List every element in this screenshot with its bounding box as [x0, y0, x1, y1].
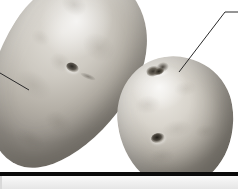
potato-right: [109, 49, 238, 189]
figure-crop: [0, 0, 238, 189]
potato-right-skin-texture: [109, 49, 238, 189]
plate-background-lower: [0, 176, 238, 189]
plate-seam-left: [0, 176, 2, 189]
